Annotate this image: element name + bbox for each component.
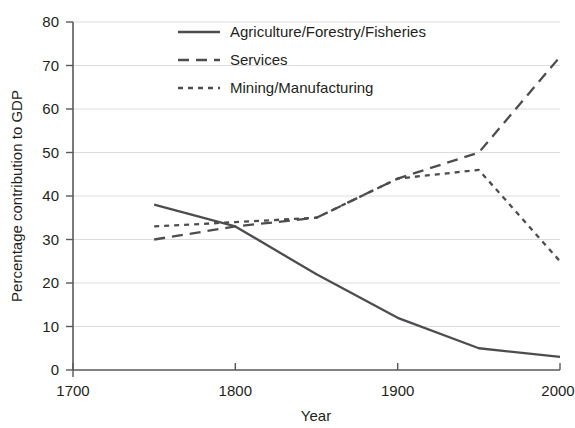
legend-label-mining: Mining/Manufacturing	[230, 79, 373, 96]
y-axis-ticks	[66, 22, 73, 370]
y-tick-label-70: 70	[42, 57, 59, 74]
gridlines	[73, 22, 560, 327]
y-tick-label-40: 40	[42, 187, 59, 204]
x-tick-label-1900: 1900	[381, 382, 414, 399]
y-tick-label-80: 80	[42, 13, 59, 30]
y-tick-label-20: 20	[42, 274, 59, 291]
y-axis-tick-labels: 80 70 60 50 40 30 20 10 0	[42, 13, 59, 378]
y-axis-title: Percentage contribution to GDP	[8, 90, 25, 302]
legend-label-agriculture: Agriculture/Forestry/Fisheries	[230, 23, 426, 40]
data-series	[154, 57, 560, 357]
x-tick-label-1800: 1800	[219, 382, 252, 399]
y-tick-label-30: 30	[42, 231, 59, 248]
y-tick-label-50: 50	[42, 144, 59, 161]
line-chart-figure: 80 70 60 50 40 30 20 10 0 1700 1800 1900…	[0, 0, 575, 428]
x-tick-label-2000: 2000	[541, 382, 574, 399]
x-axis-title: Year	[301, 407, 331, 424]
y-tick-label-10: 10	[42, 318, 59, 335]
y-tick-label-60: 60	[42, 100, 59, 117]
series-line-mining	[154, 170, 560, 261]
x-axis-tick-labels: 1700 1800 1900 2000	[56, 382, 574, 399]
x-tick-label-1700: 1700	[56, 382, 89, 399]
chart-legend: Agriculture/Forestry/Fisheries Services …	[178, 23, 426, 96]
legend-label-services: Services	[230, 51, 288, 68]
chart-canvas: 80 70 60 50 40 30 20 10 0 1700 1800 1900…	[0, 0, 575, 428]
y-tick-label-0: 0	[51, 361, 59, 378]
series-line-agriculture	[154, 205, 560, 357]
